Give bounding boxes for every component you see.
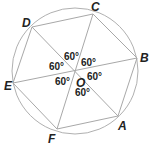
center-label-o: O [76, 76, 86, 90]
angle-label: 60° [64, 51, 79, 62]
vertex-label-e: E [4, 79, 13, 93]
vertex-label-b: B [140, 51, 149, 65]
diagram-canvas: ABCDEF 60°60°60°60°60°60° O [0, 0, 149, 154]
angle-label: 60° [81, 57, 96, 68]
vertex-label-f: F [48, 132, 56, 146]
angle-label: 60° [55, 76, 70, 87]
angle-label: 60° [87, 71, 102, 82]
vertex-label-d: D [22, 16, 31, 30]
angle-label: 60° [49, 61, 64, 72]
hexagon-diagram: ABCDEF 60°60°60°60°60°60° O [0, 0, 149, 154]
vertex-label-a: A [117, 119, 127, 133]
diagonals [13, 14, 137, 129]
vertex-label-c: C [91, 0, 100, 14]
